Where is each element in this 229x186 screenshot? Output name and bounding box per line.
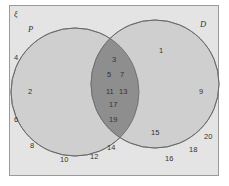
- set-p-label: P: [27, 24, 33, 34]
- element-5: 5: [107, 70, 111, 79]
- element-15: 15: [151, 128, 159, 137]
- element-14: 14: [107, 143, 115, 152]
- element-7: 7: [120, 70, 124, 79]
- element-18: 18: [189, 145, 197, 154]
- element-17: 17: [109, 100, 117, 109]
- venn-diagram: ξ P D 2 1 9 15 3 5 7 11 13 17 19 4 6 8 1…: [0, 0, 229, 186]
- element-4: 4: [14, 53, 18, 62]
- element-16: 16: [165, 154, 173, 163]
- element-10: 10: [60, 155, 68, 164]
- element-9: 9: [199, 87, 203, 96]
- set-d-label: D: [199, 19, 207, 29]
- element-2: 2: [28, 87, 32, 96]
- element-20: 20: [204, 132, 212, 141]
- element-3: 3: [112, 55, 116, 64]
- element-11: 11: [106, 87, 114, 96]
- element-12: 12: [90, 152, 98, 161]
- element-8: 8: [30, 141, 34, 150]
- element-1: 1: [159, 46, 163, 55]
- universal-set-symbol: ξ: [14, 9, 18, 19]
- element-19: 19: [109, 115, 117, 124]
- element-6: 6: [14, 115, 18, 124]
- element-13: 13: [119, 87, 127, 96]
